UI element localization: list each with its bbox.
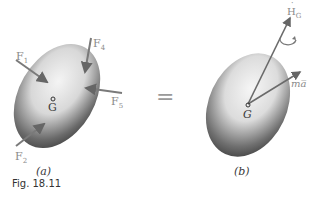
force-f5-label: F5: [111, 95, 123, 110]
force-f1-label: F1: [16, 50, 28, 65]
angular-momentum-dot: ˙: [290, 1, 295, 11]
linear-term-label: ma̅: [291, 78, 306, 89]
panel-a-label: (a): [36, 165, 51, 178]
mass-center-b-label: G: [243, 108, 252, 121]
rigid-body-diagram: F1 F4 F5 F2 G (a) = HG ˙ ma̅ G (b): [0, 0, 325, 202]
figure-caption: Fig. 18.11: [12, 178, 61, 189]
rotation-arrowhead-icon: [292, 36, 296, 40]
force-f2-label: F2: [15, 150, 27, 165]
mass-center-a-label: G: [48, 101, 57, 114]
force-f4-label: F4: [93, 37, 106, 52]
rigid-body-b: [190, 40, 306, 171]
panel-b-label: (b): [234, 165, 250, 178]
equals-sign: =: [156, 84, 174, 109]
